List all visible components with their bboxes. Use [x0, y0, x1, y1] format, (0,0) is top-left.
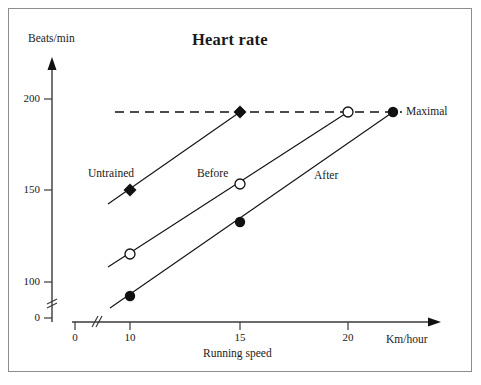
series-label-before: Before	[197, 167, 228, 179]
marker-untrained-15	[234, 106, 247, 119]
series-after	[110, 107, 398, 308]
y-tick-label-150: 150	[14, 183, 40, 195]
series-label-untrained: Untrained	[88, 167, 134, 179]
x-tick-label-20: 20	[335, 331, 361, 343]
y-tick-label-100: 100	[14, 275, 40, 287]
y-axis	[44, 57, 57, 322]
chart-page: Heart rate Beats/min Running speed Km/ho…	[0, 0, 481, 385]
y-tick-label-200: 200	[14, 92, 40, 104]
x-axis	[72, 316, 441, 330]
x-tick-label-0: 0	[62, 331, 88, 343]
heart-rate-chart-svg	[0, 0, 481, 385]
maximal-line-label: Maximal	[406, 105, 448, 117]
series-before	[108, 107, 353, 267]
marker-after-22	[388, 107, 398, 117]
marker-before-15	[235, 179, 245, 189]
x-axis-label: Running speed	[203, 347, 272, 359]
marker-before-20	[343, 107, 353, 117]
series-label-after: After	[314, 169, 338, 181]
series-untrained	[108, 106, 247, 205]
y-axis-unit-label: Beats/min	[28, 32, 75, 44]
page-title: Heart rate	[192, 30, 268, 50]
x-axis-unit-label: Km/hour	[386, 333, 428, 345]
x-tick-label-10: 10	[117, 331, 143, 343]
x-tick-label-15: 15	[227, 331, 253, 343]
marker-before-10	[125, 249, 135, 259]
marker-after-15	[235, 217, 245, 227]
y-tick-label-0: 0	[14, 311, 40, 323]
marker-after-10	[125, 291, 135, 301]
